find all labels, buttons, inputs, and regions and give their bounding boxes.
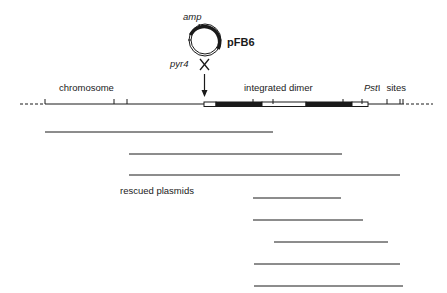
amp-label: amp: [183, 11, 201, 22]
chromosome-map: [20, 99, 433, 107]
plasmid-name-label: pFB6: [227, 36, 255, 48]
rescued-plasmid-lines: [45, 132, 403, 286]
pst-sites-label: PstIsites: [364, 82, 406, 93]
segment-white: [204, 102, 216, 107]
integration-diagram: amp pFB6 pyr4 chromosome integrated dime…: [0, 0, 447, 293]
pyr4-label: pyr4: [169, 58, 188, 69]
segment-white: [352, 102, 368, 107]
plasmid-amp-arc: [191, 27, 220, 49]
segment-black: [216, 102, 262, 107]
plasmid-pfb6: amp pFB6 pyr4: [169, 11, 255, 69]
segment-white: [262, 102, 306, 107]
chromosome-label: chromosome: [59, 82, 114, 93]
segment-black: [306, 102, 352, 107]
rescued-plasmids-label: rescued plasmids: [120, 185, 194, 196]
integrated-dimer-label: integrated dimer: [244, 82, 313, 93]
integration-arrow-icon: [202, 74, 208, 97]
crossover-icon: [200, 59, 209, 70]
